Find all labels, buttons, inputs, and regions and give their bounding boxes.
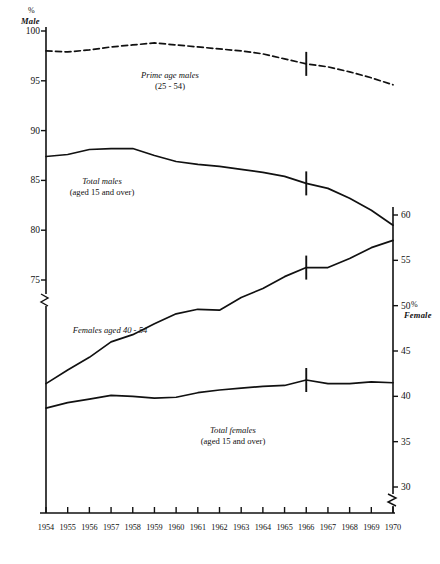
right-axis-break-symbol bbox=[388, 494, 396, 506]
left-axis-tick-label: 100 bbox=[16, 26, 40, 36]
right-axis-tick-label: 45 bbox=[401, 346, 411, 356]
chart-series-group bbox=[46, 43, 393, 408]
x-axis-tick-label: 1961 bbox=[190, 523, 206, 532]
right-axis-tick-label: 35 bbox=[401, 437, 411, 447]
right-axis-percent-symbol: % bbox=[411, 300, 418, 309]
series-annotation-line2: (aged 15 and over) bbox=[201, 436, 266, 447]
left-axis-tick-label: 90 bbox=[16, 126, 40, 136]
x-axis-tick-label: 1956 bbox=[81, 523, 97, 532]
left-axis-tick-label: 75 bbox=[16, 275, 40, 285]
x-axis-tick-label: 1955 bbox=[60, 523, 76, 532]
right-axis-unit-label: Female bbox=[404, 310, 432, 320]
left-axis-unit-label: Male bbox=[21, 16, 40, 26]
series-annotation-line1: Total males bbox=[70, 176, 135, 187]
left-axis-tick-label: 85 bbox=[16, 175, 40, 185]
right-axis-tick-label: 40 bbox=[401, 391, 411, 401]
right-axis-tick-label: 55 bbox=[401, 255, 411, 265]
series-annotation-1: Total males(aged 15 and over) bbox=[70, 176, 135, 198]
series-annotation-2: Females aged 40 - 54 bbox=[73, 325, 147, 336]
right-axis-tick-label: 30 bbox=[401, 482, 411, 492]
series-line-2 bbox=[46, 240, 393, 383]
x-axis-tick-label: 1959 bbox=[146, 523, 162, 532]
chart-plot-area bbox=[0, 0, 440, 564]
series-annotation-line1: Prime age males bbox=[141, 70, 199, 81]
x-axis-tick-label: 1954 bbox=[38, 523, 54, 532]
x-axis-tick-label: 1967 bbox=[320, 523, 336, 532]
left-axis-tick-label: 95 bbox=[16, 76, 40, 86]
series-annotation-0: Prime age males(25 - 54) bbox=[141, 70, 199, 92]
x-axis-tick-label: 1958 bbox=[125, 523, 141, 532]
right-axis-tick-label: 60 bbox=[401, 210, 411, 220]
x-axis-tick-label: 1962 bbox=[211, 523, 227, 532]
series-annotation-line2: (aged 15 and over) bbox=[70, 187, 135, 198]
x-axis-tick-label: 1968 bbox=[341, 523, 357, 532]
x-axis-tick-label: 1969 bbox=[363, 523, 379, 532]
x-axis-tick-label: 1965 bbox=[276, 523, 292, 532]
series-annotation-3: Total females(aged 15 and over) bbox=[201, 425, 266, 447]
series-line-3 bbox=[46, 380, 393, 408]
series-annotation-line2: (25 - 54) bbox=[141, 81, 199, 92]
x-axis-tick-label: 1957 bbox=[103, 523, 119, 532]
x-axis-tick-label: 1960 bbox=[168, 523, 184, 532]
x-axis-tick-label: 1964 bbox=[255, 523, 271, 532]
x-axis-tick-label: 1963 bbox=[233, 523, 249, 532]
x-axis-tick-label: 1966 bbox=[298, 523, 314, 532]
left-axis-percent-symbol: % bbox=[28, 6, 35, 15]
left-axis-break-symbol bbox=[41, 294, 48, 306]
chart-figure: % Male % Female 1009590858075 6055504540… bbox=[0, 0, 440, 564]
series-annotation-line1: Total females bbox=[201, 425, 266, 436]
left-axis-tick-label: 80 bbox=[16, 225, 40, 235]
series-line-0 bbox=[46, 43, 393, 85]
x-axis-tick-label: 1970 bbox=[385, 523, 401, 532]
series-annotation-line1: Females aged 40 - 54 bbox=[73, 325, 147, 336]
right-axis-tick-label: 50 bbox=[401, 301, 411, 311]
